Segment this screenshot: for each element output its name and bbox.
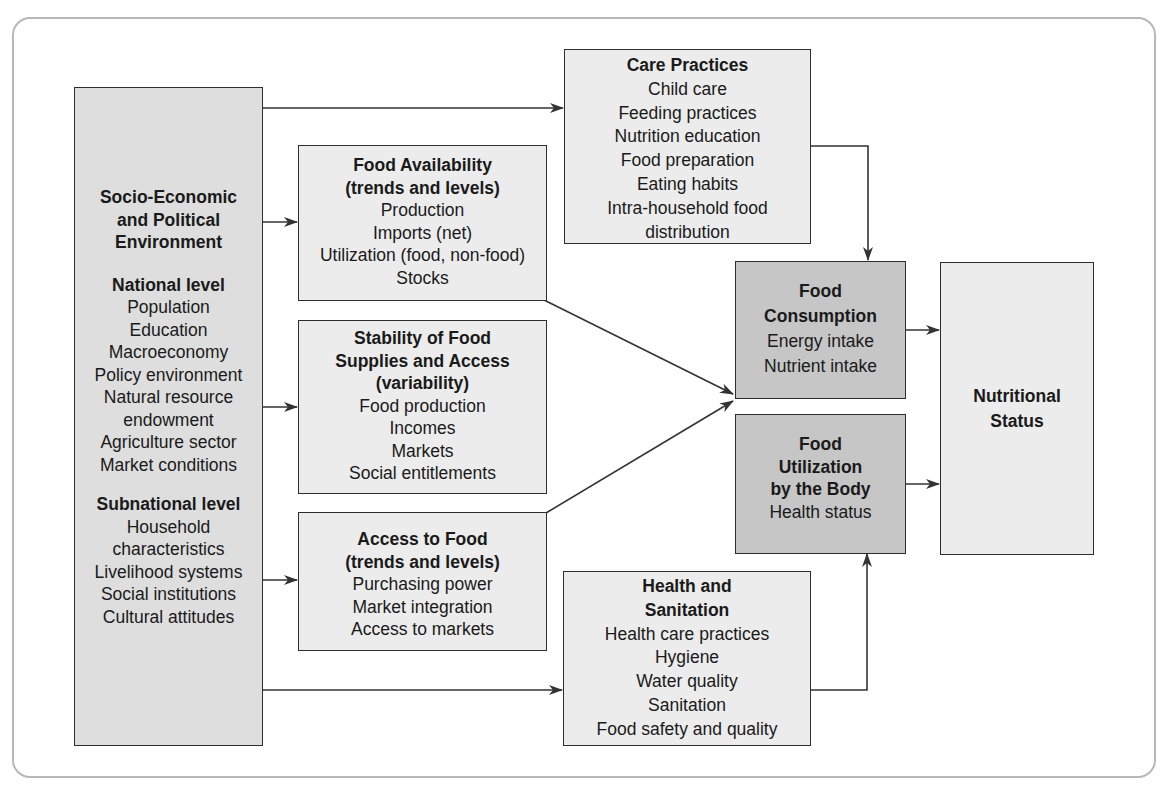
care-item: distribution (565, 221, 810, 245)
arrow-availability-to-consumption (540, 298, 733, 394)
food-availability-item: Utilization (food, non-food) (299, 244, 546, 267)
health-item: Hygiene (564, 646, 810, 670)
care-item: Child care (565, 78, 810, 102)
stability-item: Markets (299, 440, 546, 463)
socio-economic-box: Socio-Economic and Political Environment… (74, 87, 263, 746)
national-item: Market conditions (75, 454, 262, 477)
national-item: Agriculture sector (75, 431, 262, 454)
consumption-item: Nutrient intake (736, 354, 905, 379)
care-item: Feeding practices (565, 102, 810, 126)
stability-item: Food production (299, 395, 546, 418)
food-availability-box: Food Availability (trends and levels) Pr… (298, 145, 547, 301)
stability-title-3: (variability) (299, 372, 546, 395)
health-item: Food safety and quality (564, 718, 810, 742)
care-item: Nutrition education (565, 125, 810, 149)
food-consumption-box: Food Consumption Energy intake Nutrient … (735, 261, 906, 399)
arrow-health-to-utilization (810, 554, 867, 690)
care-practices-title: Care Practices (565, 54, 810, 78)
national-item: Policy environment (75, 364, 262, 387)
health-sanitation-box: Health and Sanitation Health care practi… (563, 571, 811, 746)
access-item: Access to markets (299, 618, 546, 641)
food-availability-item: Imports (net) (299, 222, 546, 245)
subnational-level-heading: Subnational level (75, 493, 262, 516)
stability-item: Incomes (299, 417, 546, 440)
stability-title-2: Supplies and Access (299, 350, 546, 373)
access-to-food-box: Access to Food (trends and levels) Purch… (298, 512, 547, 651)
care-item: Intra-household food (565, 197, 810, 221)
subnational-item: Household (75, 516, 262, 539)
consumption-title-1: Food (736, 279, 905, 304)
utilization-title-3: by the Body (736, 478, 905, 501)
national-item: Population (75, 296, 262, 319)
consumption-item: Energy intake (736, 329, 905, 354)
health-item: Sanitation (564, 694, 810, 718)
nutritional-status-title-1: Nutritional (941, 384, 1093, 409)
socio-economic-title-3: Environment (75, 231, 262, 254)
nutritional-status-title-2: Status (941, 409, 1093, 434)
food-availability-title-1: Food Availability (299, 154, 546, 177)
access-item: Purchasing power (299, 573, 546, 596)
stability-box: Stability of Food Supplies and Access (v… (298, 320, 547, 494)
socio-economic-title-2: and Political (75, 209, 262, 232)
subnational-item: Social institutions (75, 583, 262, 606)
food-availability-item: Stocks (299, 267, 546, 290)
access-title-2: (trends and levels) (299, 551, 546, 574)
subnational-item: characteristics (75, 538, 262, 561)
health-title-2: Sanitation (564, 599, 810, 623)
utilization-title-2: Utilization (736, 456, 905, 479)
national-item: Macroeconomy (75, 341, 262, 364)
socio-economic-title-1: Socio-Economic (75, 186, 262, 209)
access-item: Market integration (299, 596, 546, 619)
utilization-item: Health status (736, 501, 905, 524)
arrow-access-to-consumption (546, 401, 733, 513)
food-availability-title-2: (trends and levels) (299, 177, 546, 200)
subnational-item: Livelihood systems (75, 561, 262, 584)
care-practices-box: Care Practices Child care Feeding practi… (564, 49, 811, 244)
health-title-1: Health and (564, 575, 810, 599)
health-item: Water quality (564, 670, 810, 694)
nutritional-status-box: Nutritional Status (940, 262, 1094, 555)
consumption-title-2: Consumption (736, 304, 905, 329)
food-utilization-box: Food Utilization by the Body Health stat… (735, 414, 906, 554)
national-level-heading: National level (75, 274, 262, 297)
national-item: endowment (75, 409, 262, 432)
stability-title-1: Stability of Food (299, 327, 546, 350)
care-item: Eating habits (565, 173, 810, 197)
national-item: Education (75, 319, 262, 342)
arrow-care-to-consumption (810, 146, 868, 260)
access-title-1: Access to Food (299, 528, 546, 551)
stability-item: Social entitlements (299, 462, 546, 485)
health-item: Health care practices (564, 623, 810, 647)
care-item: Food preparation (565, 149, 810, 173)
subnational-item: Cultural attitudes (75, 606, 262, 629)
utilization-title-1: Food (736, 433, 905, 456)
national-item: Natural resource (75, 386, 262, 409)
food-availability-item: Production (299, 199, 546, 222)
